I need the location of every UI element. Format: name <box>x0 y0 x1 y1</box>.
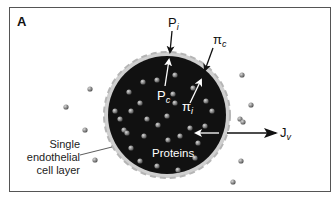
endothelial-label-line2: endothelial <box>12 151 80 164</box>
endothelial-leader-line <box>80 147 112 155</box>
endothelial-label-line1: Single <box>12 138 80 151</box>
arrow-Pi <box>170 31 172 52</box>
label-Jv: Jv <box>280 125 292 142</box>
label-pic: πc <box>213 32 227 49</box>
arrow-pic <box>205 48 213 70</box>
label-Pi: Pi <box>168 15 180 32</box>
label-proteins: Proteins <box>152 147 194 159</box>
endothelial-label: Single endothelial cell layer <box>12 138 80 177</box>
endothelial-label-line3: cell layer <box>12 164 80 177</box>
